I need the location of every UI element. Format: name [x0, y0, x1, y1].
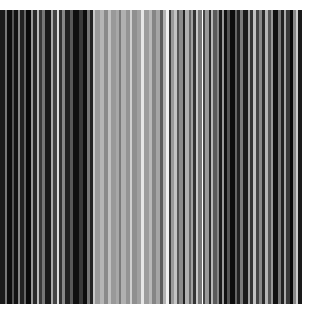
vertical-stripes-pattern: [0, 10, 302, 304]
stripe: [298, 10, 302, 304]
